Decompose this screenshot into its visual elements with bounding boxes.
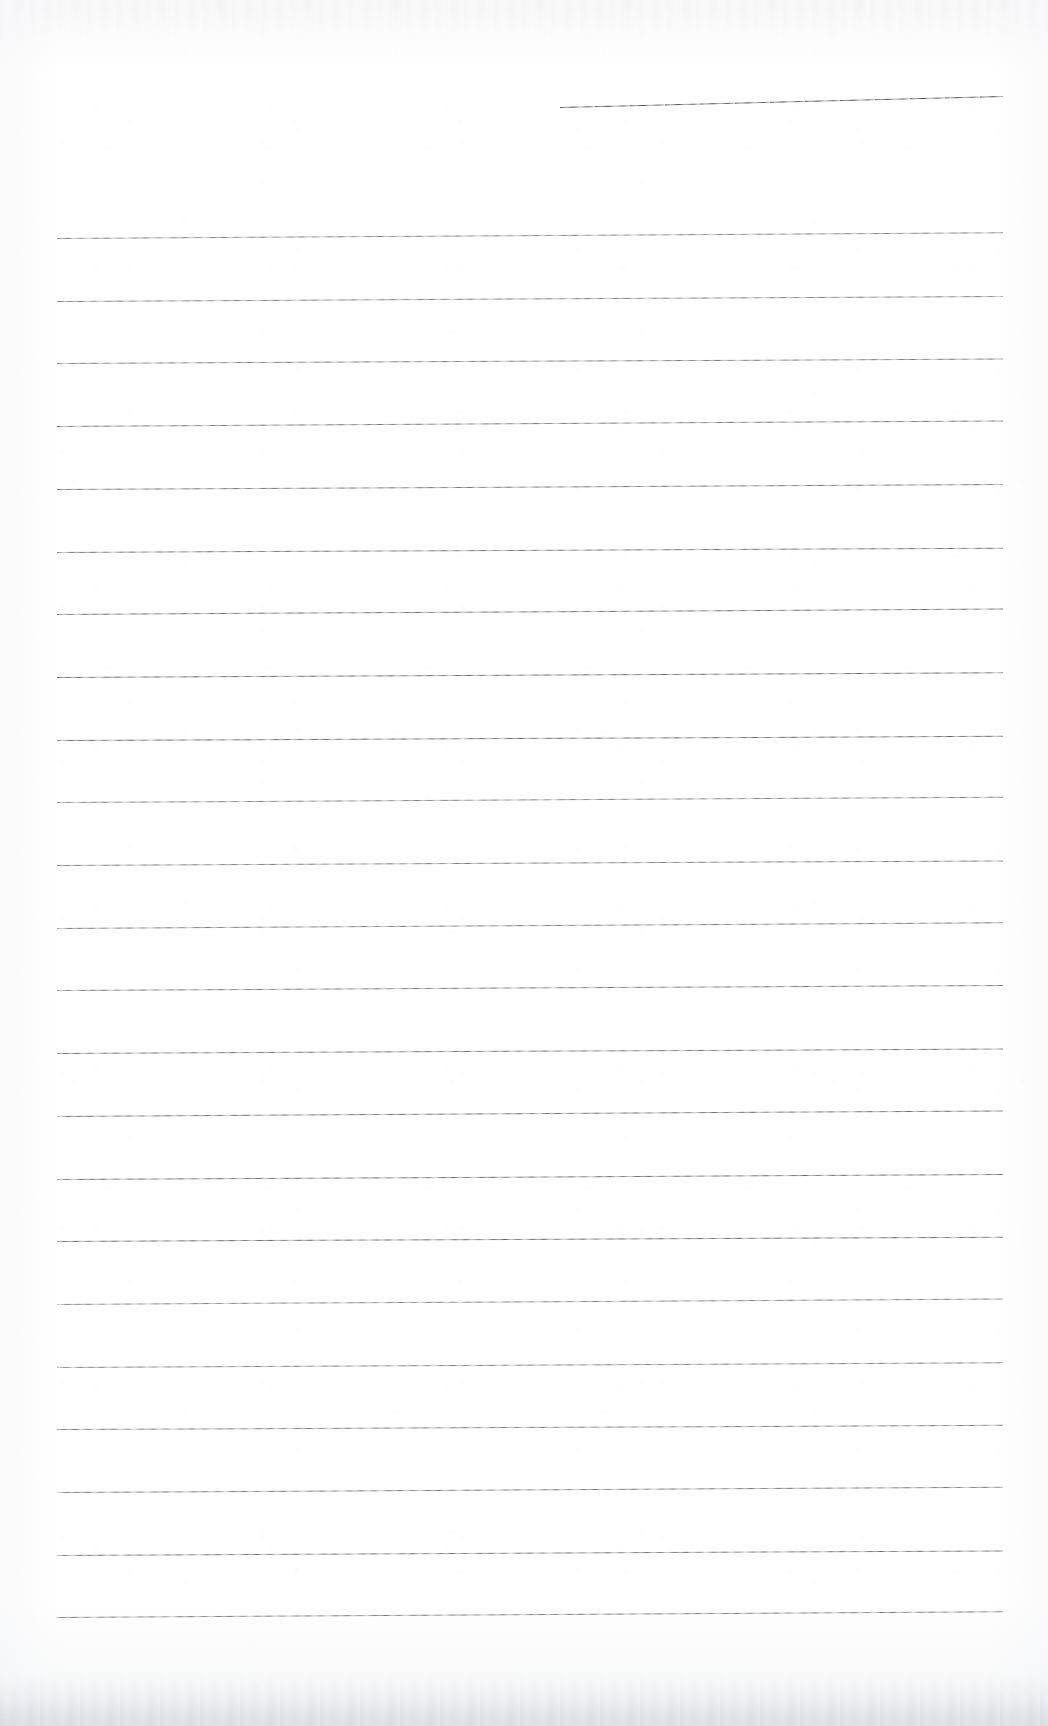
body-rule-ink — [57, 672, 1003, 678]
body-rule-ink — [57, 359, 1003, 364]
body-rule-line — [57, 735, 1003, 740]
header-rule-ink — [560, 96, 1003, 108]
body-rule-ink — [57, 1174, 1003, 1180]
body-rule-ink — [57, 1110, 1003, 1117]
body-rule-ink — [57, 1487, 1003, 1493]
body-rule-line — [57, 1550, 1003, 1556]
body-rule-ink — [57, 1049, 1003, 1054]
body-rule-line — [57, 1049, 1003, 1054]
body-rule-ink — [57, 1550, 1003, 1556]
scanned-page — [0, 0, 1048, 1726]
body-rule-line — [57, 672, 1003, 678]
body-rule-ink — [57, 1425, 1003, 1430]
body-rule-line — [57, 985, 1003, 991]
body-rule-line — [57, 797, 1003, 803]
body-rule-ink — [57, 609, 1003, 615]
body-rule-ink — [57, 232, 1003, 239]
body-rule-ink — [57, 922, 1003, 929]
body-rule-line — [57, 296, 1003, 302]
header-rule-line — [560, 96, 1003, 108]
body-rule-ink — [57, 420, 1003, 427]
body-rule-ink — [57, 1298, 1003, 1304]
body-rule-line — [57, 547, 1003, 552]
body-rule-line — [57, 922, 1003, 929]
body-rule-ink — [57, 985, 1003, 991]
body-rule-line — [57, 1425, 1003, 1430]
body-rule-line — [57, 1487, 1003, 1493]
body-rule-line — [57, 1237, 1003, 1242]
body-rule-ink — [57, 484, 1003, 490]
body-rule-line — [57, 609, 1003, 615]
body-rule-line — [57, 359, 1003, 364]
body-rule-line — [57, 1612, 1003, 1619]
body-rule-line — [57, 420, 1003, 427]
body-rule-line — [57, 232, 1003, 239]
body-rule-ink — [57, 735, 1003, 740]
body-rule-line — [57, 1110, 1003, 1117]
body-rule-ink — [57, 797, 1003, 803]
ruled-lines-layer — [0, 0, 1048, 1726]
body-rule-ink — [57, 547, 1003, 552]
body-rule-line — [57, 860, 1003, 866]
body-rule-line — [57, 1362, 1003, 1368]
body-rule-ink — [57, 1612, 1003, 1619]
body-rule-line — [57, 484, 1003, 490]
body-rule-line — [57, 1174, 1003, 1180]
body-rule-ink — [57, 860, 1003, 866]
body-rule-line — [57, 1298, 1003, 1304]
body-rule-ink — [57, 296, 1003, 302]
body-rule-ink — [57, 1237, 1003, 1242]
body-rule-ink — [57, 1362, 1003, 1368]
